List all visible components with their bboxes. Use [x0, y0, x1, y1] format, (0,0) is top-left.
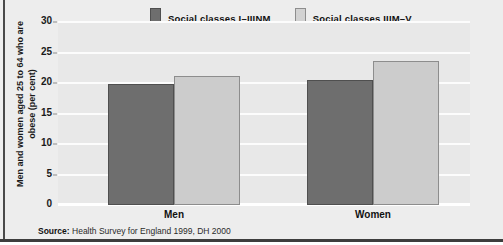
tick-mark-icon: [53, 82, 57, 84]
source-note: Source: Health Survey for England 1999, …: [38, 226, 231, 236]
y-tick-30: 30: [30, 16, 52, 26]
plot-area: [58, 21, 470, 205]
bar-men-social-classes-iiim-v[interactable]: [174, 76, 240, 205]
gridline-25: [58, 52, 470, 54]
gridline-30: [58, 21, 470, 23]
y-tick-15: 15: [30, 108, 52, 118]
y-tick-5: 5: [30, 169, 52, 179]
tick-mark-icon: [53, 52, 57, 54]
tick-mark-icon: [53, 143, 57, 145]
y-tick-10: 10: [30, 138, 52, 148]
frame-left-border: [3, 0, 5, 240]
y-tick-0: 0: [30, 199, 52, 209]
category-label-women: Women: [307, 209, 439, 220]
tick-mark-icon: [53, 21, 57, 23]
tick-mark-icon: [53, 174, 57, 176]
bar-men-social-classes-i-iiinm[interactable]: [108, 84, 174, 205]
source-prefix: Source:: [38, 226, 70, 236]
y-tick-20: 20: [30, 77, 52, 87]
bar-women-social-classes-i-iiinm[interactable]: [307, 80, 373, 205]
chart-figure: Social classes I–IIINM Social classes II…: [0, 0, 503, 245]
y-axis-tick-labels: 30 25 20 15 10 5 0: [28, 21, 52, 205]
tick-mark-icon: [53, 113, 57, 115]
source-text: Health Survey for England 1999, DH 2000: [70, 226, 231, 236]
bar-women-social-classes-iiim-v[interactable]: [373, 61, 439, 205]
category-label-men: Men: [108, 209, 240, 220]
y-tick-25: 25: [30, 47, 52, 57]
